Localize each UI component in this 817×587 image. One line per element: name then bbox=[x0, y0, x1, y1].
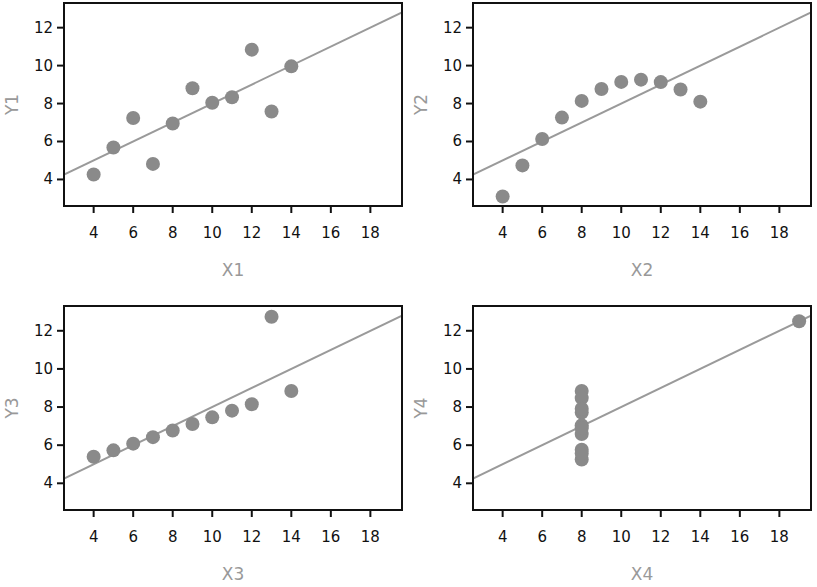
y-tick-label: 6 bbox=[43, 132, 53, 150]
y-axis-label: Y2 bbox=[411, 94, 431, 116]
data-point bbox=[575, 421, 589, 435]
x-axis-label: X4 bbox=[631, 564, 653, 584]
x-tick-label: 6 bbox=[128, 224, 138, 242]
data-point bbox=[106, 141, 120, 155]
x-tick-label: 16 bbox=[321, 528, 340, 546]
x-tick-label: 18 bbox=[361, 528, 380, 546]
data-point bbox=[575, 402, 589, 416]
y-tick-label: 6 bbox=[43, 436, 53, 454]
x-tick-label: 14 bbox=[691, 528, 710, 546]
y-tick-label: 4 bbox=[43, 170, 53, 188]
scatter-panel-1: 46810121416184681012X1Y1 bbox=[2, 3, 402, 280]
data-point bbox=[166, 116, 180, 130]
x-axis-label: X3 bbox=[222, 564, 244, 584]
data-point bbox=[535, 132, 549, 146]
y-tick-label: 8 bbox=[452, 398, 462, 416]
x-tick-label: 6 bbox=[128, 528, 138, 546]
x-tick-label: 8 bbox=[168, 528, 178, 546]
regression-line bbox=[473, 12, 811, 174]
x-tick-label: 10 bbox=[612, 224, 631, 242]
data-point bbox=[792, 314, 806, 328]
y-tick-label: 10 bbox=[34, 360, 53, 378]
x-tick-label: 8 bbox=[168, 224, 178, 242]
y-axis-label: Y3 bbox=[2, 397, 22, 419]
plot-frame bbox=[473, 3, 811, 206]
data-point bbox=[674, 83, 688, 97]
y-tick-label: 10 bbox=[443, 360, 462, 378]
x-axis-label: X2 bbox=[631, 260, 653, 280]
data-point bbox=[87, 450, 101, 464]
x-tick-label: 18 bbox=[770, 528, 789, 546]
data-point bbox=[106, 443, 120, 457]
data-point bbox=[575, 94, 589, 108]
x-tick-label: 16 bbox=[730, 224, 749, 242]
x-tick-label: 16 bbox=[730, 528, 749, 546]
y-tick-label: 6 bbox=[452, 132, 462, 150]
x-tick-label: 10 bbox=[203, 528, 222, 546]
data-point bbox=[225, 90, 239, 104]
x-tick-label: 8 bbox=[577, 224, 587, 242]
x-tick-label: 6 bbox=[537, 224, 547, 242]
data-point bbox=[185, 417, 199, 431]
scatter-panel-4: 46810121416184681012X4Y4 bbox=[411, 306, 811, 584]
y-tick-label: 8 bbox=[43, 398, 53, 416]
data-point bbox=[245, 43, 259, 57]
data-point bbox=[87, 168, 101, 182]
data-point bbox=[265, 310, 279, 324]
y-tick-label: 10 bbox=[34, 57, 53, 75]
y-tick-label: 8 bbox=[452, 95, 462, 113]
x-tick-label: 14 bbox=[282, 528, 301, 546]
x-tick-label: 8 bbox=[577, 528, 587, 546]
y-tick-label: 12 bbox=[443, 322, 462, 340]
x-tick-label: 12 bbox=[242, 528, 261, 546]
data-point bbox=[126, 111, 140, 125]
data-point bbox=[146, 157, 160, 171]
y-tick-label: 6 bbox=[452, 436, 462, 454]
data-point bbox=[614, 75, 628, 89]
data-point bbox=[654, 75, 668, 89]
data-point bbox=[555, 111, 569, 125]
data-point bbox=[185, 81, 199, 95]
y-tick-label: 12 bbox=[443, 19, 462, 37]
y-tick-label: 4 bbox=[452, 474, 462, 492]
data-point bbox=[166, 423, 180, 437]
data-point bbox=[515, 158, 529, 172]
y-tick-label: 4 bbox=[452, 170, 462, 188]
y-tick-label: 12 bbox=[34, 322, 53, 340]
x-tick-label: 4 bbox=[498, 528, 508, 546]
x-tick-label: 12 bbox=[651, 528, 670, 546]
x-tick-label: 10 bbox=[612, 528, 631, 546]
data-point bbox=[693, 95, 707, 109]
x-tick-label: 12 bbox=[651, 224, 670, 242]
data-point bbox=[575, 447, 589, 461]
data-point bbox=[146, 430, 160, 444]
y-axis-label: Y1 bbox=[2, 94, 22, 116]
plot-frame bbox=[64, 3, 402, 206]
data-point bbox=[205, 410, 219, 424]
data-point bbox=[126, 437, 140, 451]
x-tick-label: 10 bbox=[203, 224, 222, 242]
data-point bbox=[205, 96, 219, 110]
data-point bbox=[496, 190, 510, 204]
data-point bbox=[245, 397, 259, 411]
x-tick-label: 16 bbox=[321, 224, 340, 242]
data-point bbox=[594, 82, 608, 96]
plot-frame bbox=[473, 306, 811, 510]
y-tick-label: 12 bbox=[34, 19, 53, 37]
data-point bbox=[634, 73, 648, 87]
regression-line bbox=[473, 316, 811, 479]
y-tick-label: 8 bbox=[43, 95, 53, 113]
x-tick-label: 6 bbox=[537, 528, 547, 546]
data-point bbox=[265, 105, 279, 119]
data-point bbox=[225, 404, 239, 418]
y-tick-label: 10 bbox=[443, 57, 462, 75]
x-tick-label: 18 bbox=[361, 224, 380, 242]
data-point bbox=[284, 384, 298, 398]
data-point bbox=[284, 59, 298, 73]
x-tick-label: 14 bbox=[691, 224, 710, 242]
x-axis-label: X1 bbox=[222, 260, 244, 280]
scatter-panel-3: 46810121416184681012X3Y3 bbox=[2, 306, 402, 584]
x-tick-label: 4 bbox=[498, 224, 508, 242]
y-tick-label: 4 bbox=[43, 474, 53, 492]
anscombe-quartet: 46810121416184681012X1Y14681012141618468… bbox=[0, 0, 817, 587]
